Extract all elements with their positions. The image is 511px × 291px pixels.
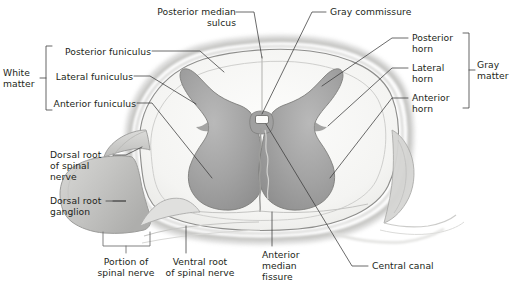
label-white-matter: White matter [3, 67, 43, 89]
label-dorsal-root-of-spinal-nerve: Dorsal root of spinal nerve [50, 149, 114, 183]
bracket-gray-matter [463, 33, 469, 108]
label-central-canal: Central canal [372, 260, 472, 271]
label-anterior-median-fissure: Anterior median fissure [262, 249, 322, 283]
label-anterior-funiculus: Anterior funiculus [20, 98, 136, 109]
label-lateral-horn: Lateral horn [412, 62, 462, 84]
label-posterior-funiculus: Posterior funiculus [20, 46, 151, 57]
label-posterior-horn: Posterior horn [412, 32, 462, 54]
label-posterior-median-sulcus: Posterior median sulcus [128, 6, 236, 28]
label-dorsal-root-ganglion: Dorsal root ganglion [50, 195, 114, 217]
central-canal [256, 116, 269, 124]
label-gray-commissure: Gray commissure [330, 6, 440, 17]
label-ventral-root-of-spinal-nerve: Ventral root of spinal nerve [152, 256, 248, 278]
spinal-cord-figure: Posterior median sulcus Gray commissure … [0, 0, 511, 291]
label-gray-matter: Gray matter [477, 59, 511, 81]
bracket-portion-of-spinal-nerve [103, 232, 150, 246]
label-anterior-horn: Anterior horn [412, 92, 462, 114]
